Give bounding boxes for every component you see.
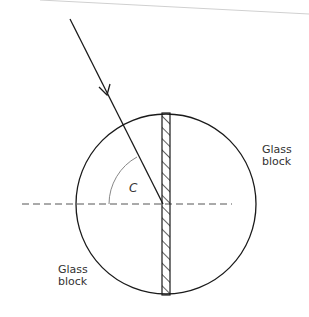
hatched-boundary bbox=[162, 113, 170, 295]
ray-arrow-icon bbox=[99, 84, 110, 95]
angle-label-c: C bbox=[129, 181, 137, 195]
glass-label-right-line2: block bbox=[262, 156, 292, 168]
glass-block-label-right: Glass block bbox=[262, 144, 292, 168]
glass-label-left-line2: block bbox=[58, 276, 88, 288]
page-edge-line bbox=[40, 0, 309, 14]
glass-block-label-left: Glass block bbox=[58, 264, 88, 288]
diagram-canvas: Glass block Glass block C bbox=[0, 0, 309, 317]
